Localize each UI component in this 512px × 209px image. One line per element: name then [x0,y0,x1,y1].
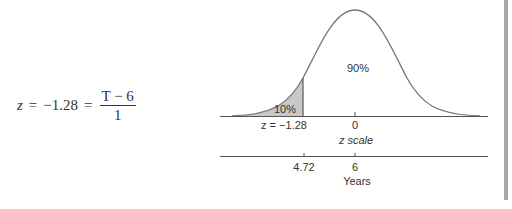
label-10-percent: 10% [274,103,296,115]
years-tick-label-472: 4.72 [293,161,314,173]
normal-curve-chart [0,0,512,209]
label-90-percent: 90% [347,62,369,74]
z-tick-label-neg: z = −1.28 [261,119,307,131]
z-tick-label-zero: 0 [352,119,358,131]
z-axis-title: z scale [339,134,373,146]
years-axis-title: Years [343,175,371,187]
years-tick-label-6: 6 [352,161,358,173]
z-axis-title-text: z scale [339,134,373,146]
page-edge-bar [504,0,508,200]
